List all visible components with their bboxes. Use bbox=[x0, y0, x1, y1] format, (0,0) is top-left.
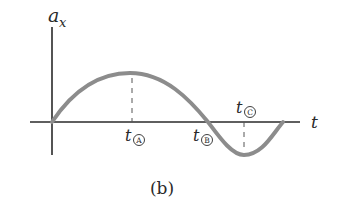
svg-text:C: C bbox=[247, 108, 253, 117]
y-axis-label: a bbox=[48, 4, 59, 26]
marker-t-a: t A bbox=[125, 126, 145, 146]
marker-t-c: t C bbox=[236, 98, 256, 118]
svg-text:t: t bbox=[125, 126, 132, 145]
figure-caption: (b) bbox=[150, 178, 174, 198]
y-axis-subscript: x bbox=[59, 15, 67, 30]
svg-text:t: t bbox=[236, 98, 243, 117]
svg-text:t: t bbox=[193, 126, 200, 145]
svg-text:B: B bbox=[204, 136, 210, 145]
acceleration-time-graph: a x t t A t B t C (b) bbox=[0, 0, 359, 207]
svg-text:A: A bbox=[135, 136, 142, 145]
x-axis-label: t bbox=[311, 112, 318, 132]
marker-t-b: t B bbox=[193, 126, 213, 146]
